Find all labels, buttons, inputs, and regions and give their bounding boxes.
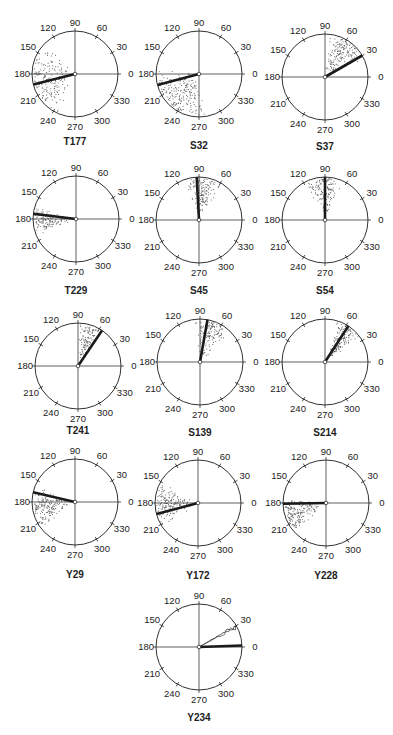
data-point [341,39,342,40]
data-point [328,179,329,180]
data-point [348,330,349,331]
data-point [52,65,53,66]
data-point [346,47,347,48]
data-point [57,503,58,504]
data-point [348,56,349,57]
angle-tick-label: 60 [97,22,108,33]
data-point [204,181,205,182]
data-point [61,79,62,80]
data-point [193,87,194,88]
data-point [172,518,173,519]
scatter-points [188,179,220,212]
data-point [43,79,44,80]
data-point [334,60,335,61]
data-point [302,505,303,506]
data-point [329,205,330,206]
data-point [84,331,85,332]
data-point [47,224,48,225]
data-point [189,499,190,500]
data-point [171,491,172,492]
data-point [221,335,222,336]
data-point [42,222,43,223]
data-point [161,487,162,488]
data-point [62,81,63,82]
data-point [205,346,206,347]
data-point [45,53,46,54]
data-point [80,340,81,341]
data-point [81,354,82,355]
data-point [202,190,203,191]
data-point [181,101,182,102]
data-point [212,340,213,341]
data-point [340,61,341,62]
data-point [294,502,295,503]
data-point [333,53,334,54]
data-point [58,500,59,501]
data-point [214,326,215,327]
angle-tick-label: 90 [70,445,81,456]
data-point [346,337,347,338]
data-point [337,55,338,56]
data-point [341,57,342,58]
data-point [342,54,343,55]
data-point [328,188,329,189]
angle-tick-label: 30 [242,329,253,340]
data-point [295,524,296,525]
data-point [342,327,343,328]
data-point [333,184,334,185]
polar-panel-s32: 0306090120150180210240270300330S32 [138,17,258,151]
data-point [50,82,51,83]
angle-tick-label: 90 [194,163,205,174]
data-point [314,509,315,510]
scatter-points [156,486,190,525]
data-point [42,490,43,491]
data-point [171,90,172,91]
data-point [168,493,169,494]
data-point [57,92,58,93]
data-point [340,346,341,347]
center-marker [196,501,200,505]
data-point [43,217,44,218]
data-point [49,509,50,510]
data-point [183,109,184,110]
polar-panel-s139: 0306090120150180210240270300330S139 [139,305,259,438]
data-point [218,187,219,188]
mean-direction-line [33,214,76,219]
data-point [210,187,211,188]
data-point [340,45,341,46]
data-point [189,97,190,98]
data-point [327,204,328,205]
data-point [48,78,49,79]
data-point [35,506,36,507]
data-point [51,75,52,76]
angle-tick-label: 270 [191,267,207,278]
data-point [209,336,210,337]
data-point [162,486,163,487]
data-point [201,342,202,343]
data-point [163,491,164,492]
data-point [38,508,39,509]
data-point [174,85,175,86]
data-point [42,497,43,498]
data-point [174,102,175,103]
data-point [54,69,55,70]
data-point [195,198,196,199]
data-point [36,209,37,210]
data-point [55,70,56,71]
data-point [334,65,335,66]
data-point [59,63,60,64]
data-point [172,513,173,514]
data-point [56,513,57,514]
data-point [195,95,196,96]
data-point [85,340,86,341]
data-point [48,511,49,512]
data-point [337,59,338,60]
data-point [45,226,46,227]
data-point [326,68,327,69]
data-point [337,44,338,45]
data-point [50,95,51,96]
data-point [292,501,293,502]
data-point [191,92,192,93]
data-point [168,89,169,90]
data-point [223,338,224,339]
